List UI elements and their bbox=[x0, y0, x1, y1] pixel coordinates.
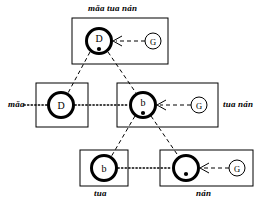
node-middle-left-letter: D bbox=[57, 100, 64, 111]
g-circle-bottom-letter: G bbox=[234, 164, 240, 174]
diagram-canvas: G G G D D b b bbox=[0, 0, 273, 218]
node-top-letter: D bbox=[95, 33, 102, 44]
node-middle-center-dot bbox=[141, 111, 145, 115]
node-bottom-left-letter: b bbox=[102, 163, 107, 174]
tree-edge-middle-center-to-bottom-right bbox=[151, 116, 179, 157]
tree-edge-top-to-middle-center bbox=[108, 52, 136, 93]
diagram-figure: G G G D D b b bbox=[0, 0, 273, 218]
label-top: mǎa tua nán bbox=[88, 3, 137, 13]
label-bottom-left: tua bbox=[94, 188, 107, 198]
node-bottom-right bbox=[174, 156, 199, 181]
node-top-dot bbox=[97, 47, 101, 51]
node-middle-center-letter: b bbox=[141, 97, 146, 108]
node-bottom-right-dot bbox=[184, 172, 188, 176]
tree-edge-middle-center-to-bottom-left bbox=[111, 116, 135, 157]
label-left: mǎa bbox=[8, 99, 25, 109]
tree-edge-top-to-middle-left bbox=[68, 52, 90, 93]
g-circle-middle-letter: G bbox=[196, 101, 202, 111]
label-bottom-right: nán bbox=[196, 188, 211, 198]
label-right: tua nán bbox=[223, 99, 253, 109]
g-circle-top-letter: G bbox=[150, 37, 156, 47]
